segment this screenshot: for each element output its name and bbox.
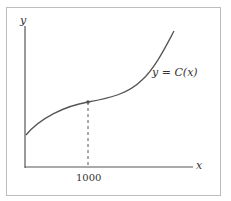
curve-label: y = C(x) xyxy=(152,66,198,79)
inflection-point xyxy=(86,100,90,104)
x-tick-label: 1000 xyxy=(76,172,101,183)
y-axis-label: y xyxy=(20,14,26,27)
cost-curve xyxy=(26,31,174,135)
x-axis-label: x xyxy=(196,159,202,172)
